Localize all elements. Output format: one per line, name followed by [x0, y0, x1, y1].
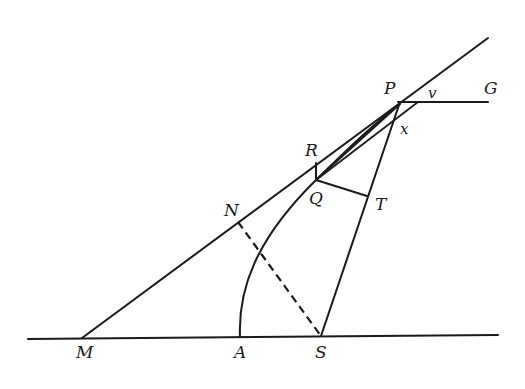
label-A: A: [232, 342, 246, 362]
label-v: v: [428, 84, 437, 102]
tangent-line: [82, 38, 488, 338]
dashed-SN: [238, 222, 321, 336]
label-G: G: [484, 78, 498, 98]
geometry-diagram: P v G x R Q T N M A S: [0, 0, 525, 389]
label-T: T: [375, 194, 388, 214]
label-M: M: [75, 342, 94, 362]
label-N: N: [223, 200, 240, 220]
label-P: P: [383, 78, 396, 98]
orbit-arc: [240, 104, 400, 337]
label-Q: Q: [309, 188, 323, 208]
label-x: x: [400, 120, 409, 138]
segment-QT: [316, 180, 367, 196]
line-v-to-Q: [316, 102, 418, 180]
label-R: R: [304, 140, 318, 160]
label-S: S: [315, 342, 327, 362]
baseline: [28, 335, 498, 339]
